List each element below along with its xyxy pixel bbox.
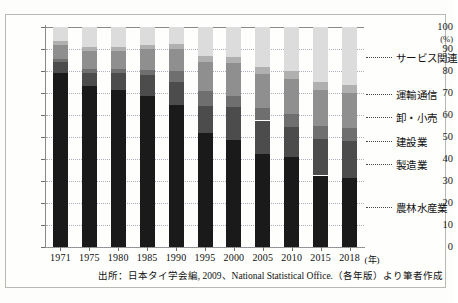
legend-label-4: 製造業 <box>396 157 427 172</box>
y-tick-mark-20 <box>41 203 45 204</box>
bar-segment-1995-建設業 <box>198 91 213 106</box>
bar-2000 <box>226 27 241 247</box>
bar-segment-2000-運輸通信 <box>226 57 241 64</box>
x-tick-mark-2010 <box>292 247 293 251</box>
x-tick-mark-1995 <box>205 247 206 251</box>
bar-segment-1971-農林水産業 <box>53 73 68 247</box>
bar-segment-1975-運輸通信 <box>82 47 97 51</box>
bar-segment-2010-製造業 <box>284 127 299 157</box>
legend-leader-line-icon <box>366 94 392 95</box>
x-tick-mark-1990 <box>176 247 177 251</box>
y-tick-mark-60 <box>41 115 45 116</box>
bar-segment-2018-運輸通信 <box>342 85 357 93</box>
bar-segment-2005-サービス関連 <box>255 27 270 67</box>
bar-segment-1980-製造業 <box>111 73 126 90</box>
bar-segment-1971-卸・小売 <box>53 45 68 59</box>
bar-segment-2015-運輸通信 <box>313 82 328 90</box>
legend-leader-line-icon <box>366 117 392 118</box>
legend-item-1: 運輸通信 <box>366 87 437 102</box>
bar-segment-2000-卸・小売 <box>226 63 241 96</box>
bar-segment-2018-建設業 <box>342 128 357 141</box>
bar-segment-1980-農林水産業 <box>111 90 126 247</box>
bar-segment-1985-製造業 <box>140 75 155 96</box>
bar-1980 <box>111 27 126 247</box>
bar-segment-1975-サービス関連 <box>82 27 97 47</box>
legend-item-4: 製造業 <box>366 157 427 172</box>
bar-segment-1995-卸・小売 <box>198 62 213 91</box>
bar-1975 <box>82 27 97 247</box>
bar-segment-2010-建設業 <box>284 114 299 127</box>
bar-segment-1985-運輸通信 <box>140 45 155 49</box>
bar-1995 <box>198 27 213 247</box>
bar-segment-2000-サービス関連 <box>226 27 241 57</box>
y-tick-mark-50 <box>41 137 45 138</box>
bar-segment-2018-製造業 <box>342 141 357 177</box>
bar-segment-1995-製造業 <box>198 106 213 132</box>
bar-segment-2010-卸・小売 <box>284 79 299 114</box>
bar-segment-2005-製造業 <box>255 121 270 154</box>
y-tick-label-80: 80 <box>419 66 453 76</box>
bar-segment-1975-建設業 <box>82 69 97 73</box>
source-separator: 、 <box>222 270 232 281</box>
x-tick-mark-2015 <box>321 247 322 251</box>
legend-leader-line-icon <box>366 141 392 142</box>
y-tick-mark-100 <box>41 27 45 28</box>
bar-segment-1985-建設業 <box>140 70 155 76</box>
bar-segment-2005-農林水産業 <box>255 154 270 248</box>
bar-segment-1990-製造業 <box>169 82 184 105</box>
source-suffix: （各年版）より筆者作成 <box>333 270 443 281</box>
x-tick-mark-1975 <box>89 247 90 251</box>
y-tick-mark-80 <box>41 71 45 72</box>
bar-segment-1995-運輸通信 <box>198 56 213 63</box>
bar-segment-1990-サービス関連 <box>169 27 184 44</box>
source-prefix: 出所：日本タイ学会編 <box>98 270 198 281</box>
bar-segment-1990-建設業 <box>169 71 184 82</box>
bar-segment-2018-卸・小売 <box>342 93 357 128</box>
legend-leader-line-icon <box>366 57 392 58</box>
bar-segment-2005-運輸通信 <box>255 67 270 75</box>
plot-area <box>46 27 364 247</box>
bar-segment-2010-サービス関連 <box>284 27 299 71</box>
bar-2005 <box>255 27 270 247</box>
bar-segment-1980-サービス関連 <box>111 27 126 47</box>
bar-segment-1971-サービス関連 <box>53 27 68 41</box>
legend-leader-line-icon <box>366 207 392 208</box>
bar-segment-1985-農林水産業 <box>140 96 155 247</box>
legend-label-5: 農林水産業 <box>396 200 448 215</box>
y-tick-label-30: 30 <box>419 176 453 186</box>
legend-label-0: サービス関連 <box>396 50 458 65</box>
bar-1990 <box>169 27 184 247</box>
bar-segment-2000-農林水産業 <box>226 140 241 247</box>
x-axis-unit-label: (年) <box>365 253 380 266</box>
bar-segment-1975-卸・小売 <box>82 51 97 69</box>
y-tick-mark-70 <box>41 93 45 94</box>
bar-segment-2015-農林水産業 <box>313 176 328 248</box>
bar-segment-1980-卸・小売 <box>111 51 126 69</box>
legend-item-3: 建設業 <box>366 134 427 149</box>
bar-2010 <box>284 27 299 247</box>
bar-segment-2005-建設業 <box>255 108 270 120</box>
y-tick-label-0: 0 <box>419 242 453 252</box>
y-tick-mark-0 <box>41 247 45 248</box>
bar-segment-2010-農林水産業 <box>284 157 299 247</box>
x-tick-mark-2018 <box>350 247 351 251</box>
x-tick-mark-2005 <box>263 247 264 251</box>
legend-leader-line-icon <box>366 164 392 165</box>
bar-segment-2005-卸・小売 <box>255 74 270 108</box>
legend-label-1: 運輸通信 <box>396 87 437 102</box>
x-tick-label-2018: 2018 <box>330 252 370 263</box>
y-tick-label-100: 100 <box>419 22 453 32</box>
bar-segment-1971-製造業 <box>53 62 68 73</box>
y-tick-mark-30 <box>41 181 45 182</box>
bar-1971 <box>53 27 68 247</box>
legend-item-0: サービス関連 <box>366 50 458 65</box>
bar-segment-1995-農林水産業 <box>198 133 213 247</box>
bar-segment-2015-サービス関連 <box>313 27 328 82</box>
bar-segment-1975-農林水産業 <box>82 86 97 247</box>
bar-segment-1975-製造業 <box>82 73 97 86</box>
bar-segment-1971-建設業 <box>53 59 68 62</box>
bar-segment-2015-卸・小売 <box>313 90 328 126</box>
bar-segment-2015-建設業 <box>313 126 328 139</box>
y-tick-mark-40 <box>41 159 45 160</box>
